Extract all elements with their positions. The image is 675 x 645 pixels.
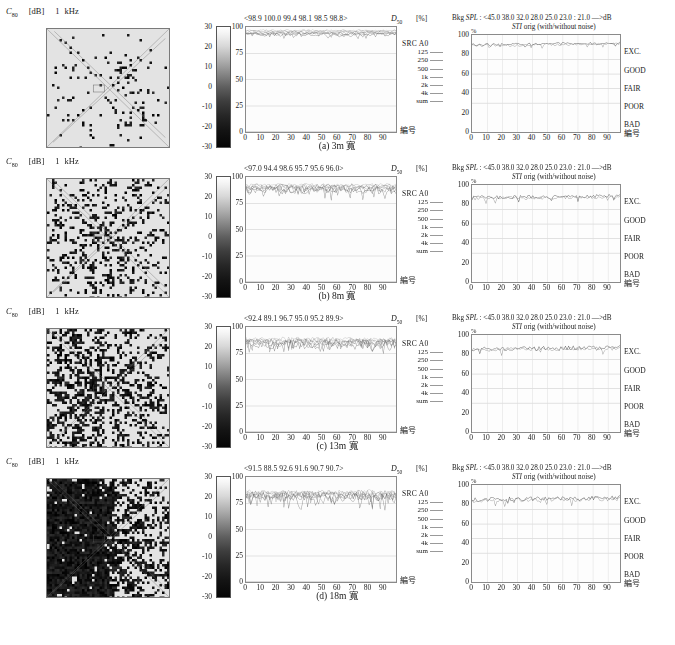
legend-item[interactable]: 250 — [400, 206, 444, 214]
d50-y-tick: 25 — [236, 550, 244, 559]
legend-title: SRC A0 — [402, 40, 444, 48]
sti-quality-label: FAIR — [624, 234, 670, 243]
figure-row: C80[dB]1kHz3020100-10-20-30<97.0 94.4 98… — [0, 150, 675, 300]
d50-chart: <98.9 100.0 99.4 98.1 98.5 98.8>D50[%]10… — [228, 14, 443, 146]
legend-item[interactable]: sum — [400, 97, 444, 105]
bkg-spl-header: Bkg SPL : <45.0 38.0 32.0 28.0 25.0 23.0… — [452, 14, 611, 22]
colorbar-tick: 10 — [205, 512, 213, 521]
d50-header-values: <92.4 89.1 96.7 95.0 95.2 89.9> — [244, 314, 344, 323]
sti-plot-area[interactable] — [471, 484, 621, 583]
legend-item[interactable]: 1k — [400, 373, 444, 381]
d50-plot-area[interactable] — [245, 176, 397, 283]
legend-item[interactable]: 250 — [400, 506, 444, 514]
left-panel-header: C80[dB]1kHz — [6, 156, 79, 168]
legend-item[interactable]: 250 — [400, 356, 444, 364]
legend-swatch-line — [430, 551, 443, 552]
sti-y-tick: 20 — [462, 257, 470, 266]
legend-item[interactable]: 2k — [400, 231, 444, 239]
sti-x-axis-title: 編号 — [624, 427, 640, 438]
d50-y-tick: 25 — [236, 400, 244, 409]
legend-item[interactable]: 500 — [400, 515, 444, 523]
legend-item[interactable]: 1k — [400, 523, 444, 531]
d50-plot-area[interactable] — [245, 326, 397, 433]
legend-item-label: 2k — [421, 81, 428, 89]
legend-item-label: 2k — [421, 381, 428, 389]
sti-y-tick: 60 — [462, 68, 470, 77]
sti-y-tick: 60 — [462, 518, 470, 527]
legend-item[interactable]: 500 — [400, 65, 444, 73]
d50-y-axis: 1007550250 — [228, 26, 243, 131]
legend-item[interactable]: 4k — [400, 539, 444, 547]
c80-spatial-map[interactable] — [46, 478, 170, 598]
legend-item-label: 2k — [421, 231, 428, 239]
legend-item[interactable]: 500 — [400, 365, 444, 373]
legend-item[interactable]: 125 — [400, 498, 444, 506]
sti-plot-area[interactable] — [471, 34, 621, 133]
legend-item[interactable]: 4k — [400, 89, 444, 97]
sti-quality-label: POOR — [624, 252, 670, 261]
legend-swatch-line — [430, 227, 443, 228]
sti-percent-mark: % — [471, 27, 476, 34]
legend-swatch-line — [430, 385, 443, 386]
legend-item[interactable]: 500 — [400, 215, 444, 223]
legend-item[interactable]: 4k — [400, 389, 444, 397]
sti-y-tick: 100 — [458, 330, 469, 339]
legend-item-label: sum — [416, 247, 428, 255]
bkg-label: Bkg — [452, 164, 464, 172]
legend-item[interactable]: 250 — [400, 56, 444, 64]
legend-item[interactable]: sum — [400, 547, 444, 555]
legend-item[interactable]: sum — [400, 397, 444, 405]
legend-swatch-line — [430, 360, 443, 361]
legend-item[interactable]: 4k — [400, 239, 444, 247]
d50-legend: SRC A01252505001k2k4ksum — [400, 190, 444, 256]
legend-item-label: sum — [416, 97, 428, 105]
legend-item-label: 500 — [418, 65, 429, 73]
legend-item-label: 1k — [421, 523, 428, 531]
d50-plot-area[interactable] — [245, 26, 397, 133]
legend-item[interactable]: 2k — [400, 381, 444, 389]
legend-item[interactable]: 125 — [400, 48, 444, 56]
legend-item[interactable]: 1k — [400, 223, 444, 231]
sti-y-tick: 40 — [462, 388, 470, 397]
legend-item-label: 4k — [421, 389, 428, 397]
c80-spatial-map[interactable] — [46, 28, 170, 148]
d50-x-axis-title: 編号 — [400, 124, 416, 135]
colorbar-tick: 0 — [208, 382, 212, 391]
sti-plot-area[interactable] — [471, 184, 621, 283]
d50-plot-canvas — [246, 27, 396, 132]
legend-swatch-line — [430, 85, 443, 86]
sti-header: STI orig (with/without noise) — [512, 323, 596, 331]
sti-y-tick: 100 — [458, 180, 469, 189]
legend-item[interactable]: 2k — [400, 81, 444, 89]
legend-item[interactable]: 2k — [400, 531, 444, 539]
sti-x-axis-title: 編号 — [624, 127, 640, 138]
sti-plot-area[interactable] — [471, 334, 621, 433]
sti-plot-canvas — [472, 485, 620, 582]
sti-chart: Bkg SPL : <45.0 38.0 32.0 28.0 25.0 23.0… — [452, 464, 672, 596]
d50-y-tick: 100 — [232, 472, 243, 481]
colorbar-tick: -20 — [202, 422, 212, 431]
c80-spatial-map[interactable] — [46, 178, 170, 298]
bkg-spl-header: Bkg SPL : <45.0 38.0 32.0 28.0 25.0 23.0… — [452, 314, 611, 322]
legend-item[interactable]: 125 — [400, 348, 444, 356]
legend-item[interactable]: 1k — [400, 73, 444, 81]
d50-plot-area[interactable] — [245, 476, 397, 583]
colorbar-tick: 10 — [205, 362, 213, 371]
map-canvas — [47, 479, 169, 597]
d50-percent-label: [%] — [416, 164, 427, 173]
legend-swatch-line — [430, 60, 443, 61]
colorbar-ticks: 3020100-10-20-30 — [190, 476, 214, 596]
colorbar-ticks: 3020100-10-20-30 — [190, 26, 214, 146]
d50-percent-label: [%] — [416, 464, 427, 473]
c80-spatial-map[interactable] — [46, 328, 170, 448]
colorbar-tick: 30 — [205, 22, 213, 31]
legend-item[interactable]: sum — [400, 247, 444, 255]
legend-item-label: sum — [416, 547, 428, 555]
d50-header-values: <91.5 88.5 92.6 91.6 90.7 90.7> — [244, 464, 344, 473]
colorbar-ticks: 3020100-10-20-30 — [190, 176, 214, 296]
legend-swatch-line — [430, 101, 443, 102]
sti-quality-label: GOOD — [624, 366, 670, 375]
sti-quality-label: FAIR — [624, 84, 670, 93]
legend-item[interactable]: 125 — [400, 198, 444, 206]
bkg-values: : <45.0 38.0 32.0 28.0 25.0 23.0 : 21.0 … — [480, 464, 612, 472]
